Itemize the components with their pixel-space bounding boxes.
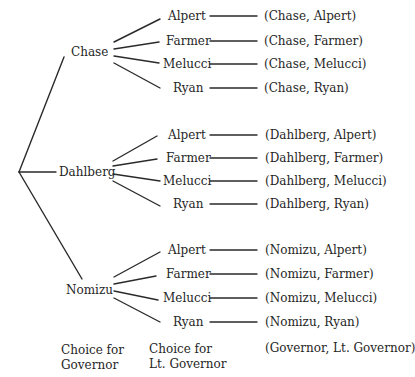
lt-governor-label: Ryan xyxy=(173,81,204,95)
lt-governor-label: Alpert xyxy=(168,128,206,142)
outcome-label: (Nomizu, Melucci) xyxy=(265,291,377,305)
outcome-label: (Nomizu, Alpert) xyxy=(265,243,367,257)
outcome-label: (Chase, Ryan) xyxy=(264,81,349,95)
lt-governor-label: Alpert xyxy=(168,243,206,257)
caption-governor: Choice for Governor xyxy=(61,343,124,373)
governor-label-chase: Chase xyxy=(71,45,108,59)
lt-governor-label: Farmer xyxy=(166,151,211,165)
caption-lt-governor-line1: Choice for xyxy=(149,342,227,357)
lt-governor-label: Ryan xyxy=(173,197,204,211)
outcome-label: (Nomizu, Farmer) xyxy=(265,267,374,281)
lt-governor-label: Farmer xyxy=(166,267,211,281)
lt-governor-label: Ryan xyxy=(173,315,204,329)
outcome-label: (Chase, Farmer) xyxy=(264,34,363,48)
lt-governor-label: Alpert xyxy=(168,9,206,23)
caption-governor-line2: Governor xyxy=(61,358,124,373)
branch-root-chase xyxy=(19,57,64,172)
governor-label-dahlberg: Dahlberg xyxy=(59,165,116,179)
governor-label-nomizu: Nomizu xyxy=(66,283,113,297)
outcome-label: (Dahlberg, Ryan) xyxy=(265,197,369,211)
outcome-label: (Dahlberg, Melucci) xyxy=(265,174,387,188)
lt-governor-label: Melucci xyxy=(163,291,211,305)
branch-root-nomizu xyxy=(19,172,82,279)
outcome-label: (Chase, Alpert) xyxy=(264,9,356,23)
outcome-label: (Nomizu, Ryan) xyxy=(265,315,359,329)
caption-lt-governor-line2: Lt. Governor xyxy=(149,357,227,372)
outcome-label: (Chase, Melucci) xyxy=(264,57,367,71)
caption-outcome-format: (Governor, Lt. Governor) xyxy=(265,341,415,355)
outcome-label: (Dahlberg, Alpert) xyxy=(265,128,376,142)
lt-governor-label: Farmer xyxy=(166,34,211,48)
outcome-label: (Dahlberg, Farmer) xyxy=(265,151,383,165)
caption-governor-line1: Choice for xyxy=(61,343,124,358)
caption-lt-governor: Choice for Lt. Governor xyxy=(149,342,227,372)
lt-governor-label: Melucci xyxy=(163,174,211,188)
lt-governor-label: Melucci xyxy=(163,57,211,71)
